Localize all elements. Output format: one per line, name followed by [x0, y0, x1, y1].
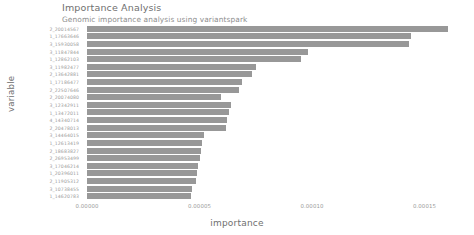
y-axis-tick-label: 1_14620783 — [49, 194, 79, 199]
y-axis-tick-label: 1_17663646 — [49, 34, 79, 39]
bar — [87, 163, 198, 169]
bar-row — [87, 93, 462, 101]
y-axis-tick-label: 2_22507646 — [49, 87, 79, 92]
y-axis-tick-label: 3_14464015 — [49, 133, 79, 138]
x-axis-tick-label: 0.00000 — [76, 203, 99, 209]
bar-row — [87, 185, 462, 193]
bar — [87, 155, 200, 161]
bar-row — [87, 86, 462, 94]
bar — [87, 79, 242, 85]
bar-row — [87, 33, 462, 41]
bar — [87, 102, 231, 108]
bar-row — [87, 192, 462, 200]
bar-row — [87, 116, 462, 124]
importance-analysis-chart: Importance Analysis Genomic importance a… — [0, 0, 474, 235]
y-axis-tick-label: 1_17186477 — [49, 80, 79, 85]
y-axis-tick-label: 2_18683827 — [49, 148, 79, 153]
bar-row — [87, 71, 462, 79]
bar — [87, 94, 221, 100]
bar — [87, 26, 448, 32]
bar-row — [87, 40, 462, 48]
y-axis-tick-label: 3_17046214 — [49, 163, 79, 168]
page-title: Importance Analysis — [62, 2, 462, 14]
bar — [87, 178, 196, 184]
chart-subtitle: Genomic importance analysis using varian… — [62, 14, 462, 25]
bar — [87, 56, 301, 62]
bar-row — [87, 154, 462, 162]
y-axis-tick-label: 1_12613419 — [49, 140, 79, 145]
bar-row — [87, 147, 462, 155]
bar — [87, 140, 202, 146]
x-axis-label: importance — [0, 218, 474, 228]
bar-row — [87, 25, 462, 33]
bar — [87, 109, 229, 115]
bar — [87, 49, 308, 55]
bar-row — [87, 78, 462, 86]
y-axis-tick-label: 4_14340714 — [49, 118, 79, 123]
bar-row — [87, 177, 462, 185]
bar — [87, 193, 191, 199]
y-axis-tick-label: 2_20478013 — [49, 125, 79, 130]
x-axis-tick-labels: 0.000000.000050.000100.00015 — [0, 203, 474, 215]
bar — [87, 186, 192, 192]
bar — [87, 71, 252, 77]
y-axis-tick-label: 1_20396011 — [49, 171, 79, 176]
bar-row — [87, 170, 462, 178]
y-axis-tick-label: 3_11982477 — [49, 64, 79, 69]
bar-row — [87, 139, 462, 147]
bar — [87, 64, 256, 70]
y-axis-tick-label: 2_20014567 — [49, 26, 79, 31]
bar-row — [87, 109, 462, 117]
y-axis-tick-label: 2_13642881 — [49, 72, 79, 77]
bar-row — [87, 63, 462, 71]
bar — [87, 33, 411, 39]
y-axis-tick-labels: 2_200145671_176636463_159300583_11847844… — [0, 25, 83, 200]
bar — [87, 87, 239, 93]
y-axis-tick-label: 3_12342911 — [49, 102, 79, 107]
bar — [87, 148, 201, 154]
y-axis-tick-label: 3_15930058 — [49, 42, 79, 47]
bar — [87, 41, 409, 47]
bar-row — [87, 101, 462, 109]
bar-row — [87, 55, 462, 63]
y-axis-tick-label: 3_10738455 — [49, 186, 79, 191]
x-axis-tick-label: 0.00010 — [300, 203, 323, 209]
bar — [87, 125, 226, 131]
y-axis-tick-label: 2_20074080 — [49, 95, 79, 100]
bar-row — [87, 48, 462, 56]
y-axis-tick-label: 2_11905312 — [49, 178, 79, 183]
bar — [87, 117, 227, 123]
chart-title-block: Importance Analysis Genomic importance a… — [62, 2, 462, 25]
bar-row — [87, 124, 462, 132]
bar — [87, 170, 197, 176]
x-axis-tick-label: 0.00005 — [188, 203, 211, 209]
y-axis-tick-label: 1_13472011 — [49, 110, 79, 115]
x-axis-tick-label: 0.00015 — [413, 203, 436, 209]
plot-area — [87, 25, 462, 200]
y-axis-tick-label: 2_26953499 — [49, 156, 79, 161]
bar-row — [87, 132, 462, 140]
bar-row — [87, 162, 462, 170]
y-axis-tick-label: 3_11847844 — [49, 49, 79, 54]
y-axis-tick-label: 1_12862103 — [49, 57, 79, 62]
bar — [87, 132, 204, 138]
